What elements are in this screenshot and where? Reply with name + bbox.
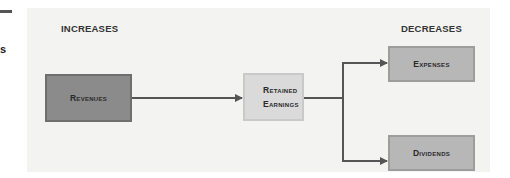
dividends-box: Dividends [388,135,475,171]
dividends-label: Dividends [413,146,450,160]
revenues-box: Revenues [45,74,132,122]
retained-earnings-label-line1: Retained [263,83,299,97]
retained-earnings-box: Retained Earnings [243,73,304,121]
expenses-label: Expenses [413,57,449,71]
expenses-box: Expenses [388,46,475,82]
revenues-label: Revenues [70,91,107,105]
retained-earnings-label-line2: Earnings [263,97,299,111]
